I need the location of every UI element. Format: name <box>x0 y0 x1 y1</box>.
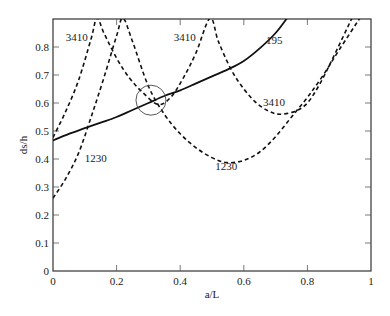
plot-frame <box>53 19 371 271</box>
y-tick-label: 0.7 <box>35 69 49 81</box>
x-tick-label: 0.2 <box>110 275 124 287</box>
y-tick-label: 0.2 <box>35 209 49 221</box>
data-series <box>53 18 360 198</box>
y-axis-label: ds/h <box>17 135 29 154</box>
y-tick-label: 0.1 <box>35 237 49 249</box>
annotations: 34103410195341012301230 <box>66 31 286 172</box>
x-tick-label: 1 <box>368 275 374 287</box>
curve-label-195: 195 <box>266 34 283 46</box>
series-3410-line <box>53 18 352 137</box>
x-tick-label: 0 <box>50 275 56 287</box>
y-tick-label: 0.5 <box>35 125 49 137</box>
y-tick-label: 0.8 <box>35 41 49 53</box>
x-tick-label: 0.4 <box>173 275 187 287</box>
y-tick-label: 0 <box>44 265 50 277</box>
axes-frame <box>53 19 371 271</box>
y-tick-label: 0.3 <box>35 181 49 193</box>
x-axis-label: a/L <box>205 288 220 300</box>
curve-label-3410: 3410 <box>66 31 89 43</box>
x-tick-label: 0.6 <box>237 275 251 287</box>
x-tick-label: 0.8 <box>301 275 315 287</box>
curve-label-3410: 3410 <box>174 31 197 43</box>
curve-label-1230: 1230 <box>85 152 108 164</box>
chart: 00.20.40.60.8100.10.20.30.40.50.60.70.8 … <box>0 0 390 316</box>
series-1230-line <box>53 18 360 198</box>
y-tick-label: 0.4 <box>35 153 49 165</box>
curve-label-3410: 3410 <box>263 96 286 108</box>
curve-label-1230: 1230 <box>215 160 238 172</box>
y-tick-label: 0.6 <box>35 97 49 109</box>
